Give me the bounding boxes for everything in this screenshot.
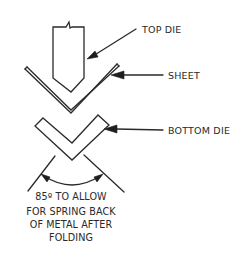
bottom-die bbox=[35, 115, 109, 160]
note-line-1: 85º TO ALLOW bbox=[35, 191, 107, 202]
press-brake-die-diagram: TOP DIE SHEET BOTTOM DIE 85º TO ALLOW FO… bbox=[0, 0, 252, 262]
sheet-metal bbox=[25, 64, 119, 113]
spring-back-note: 85º TO ALLOW FOR SPRING BACK OF METAL AF… bbox=[26, 191, 116, 243]
note-line-4: FOLDING bbox=[49, 232, 93, 243]
bottom-die-label: BOTTOM DIE bbox=[168, 125, 230, 136]
top-die bbox=[53, 22, 84, 92]
bottom-die-arrowhead bbox=[104, 125, 117, 133]
top-die-leader bbox=[87, 29, 136, 59]
bottom-die-leader bbox=[104, 125, 163, 133]
note-line-2: FOR SPRING BACK bbox=[26, 206, 116, 217]
top-die-arrowhead bbox=[87, 51, 98, 59]
note-line-3: OF METAL AFTER bbox=[30, 219, 113, 230]
sheet-leader bbox=[111, 71, 163, 79]
arc-arrowhead-left bbox=[41, 174, 50, 182]
angle-dimension-arc bbox=[41, 174, 103, 185]
top-die-label: TOP DIE bbox=[141, 24, 182, 35]
arc-arrowhead-right bbox=[94, 174, 103, 182]
sheet-label: SHEET bbox=[168, 70, 200, 81]
angle-extension-lines bbox=[28, 155, 124, 192]
